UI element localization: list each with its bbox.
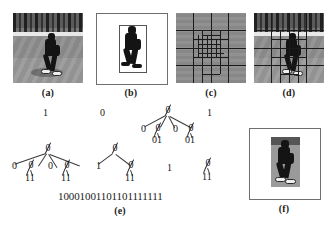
panel-b-frame — [96, 13, 168, 85]
tree-left-child-2: 0 — [27, 160, 35, 170]
bit-standalone-one: 1 — [167, 163, 172, 173]
tree-upper-right-child-3: 0 — [173, 124, 178, 134]
caption-f: (f) — [249, 203, 319, 214]
tree-middle-child-1: 1 — [96, 161, 101, 171]
tree-left-grandchild-1: 11 — [25, 173, 35, 183]
caption-b: (b) — [96, 87, 166, 98]
cropped-shoe-front — [285, 179, 296, 184]
overlay-gridlines — [254, 13, 324, 83]
person-shoe-front — [52, 71, 62, 76]
tree-upper-right-grandchild-2: 01 — [185, 135, 195, 145]
tree-upper-right-child-1: 0 — [141, 124, 146, 134]
panel-f-frame — [249, 128, 321, 200]
person-silhouette — [41, 33, 63, 77]
tree-left-root: 0 — [44, 143, 52, 153]
tree-upper-right-root: 0 — [164, 105, 172, 115]
tree-left-child-3: 0 — [48, 161, 53, 171]
tree-right-small-root: 0 — [204, 158, 212, 168]
bit-top-middle: 0 — [100, 108, 105, 118]
quadtree-gridlines — [176, 13, 246, 83]
panel-c-quadtree — [176, 13, 246, 83]
tree-right-small-leaf: 11 — [202, 172, 212, 182]
tree-middle-grandchild-1: 11 — [125, 173, 135, 183]
cropped-person-silhouette — [275, 140, 297, 185]
tree-left-child-1: 0 — [12, 161, 17, 171]
silhouette-shoe-front — [132, 64, 142, 68]
bit-top-left: 1 — [43, 108, 48, 118]
caption-c: (c) — [176, 87, 246, 98]
tree-left-child-4: 0 — [63, 160, 71, 170]
tree-middle-child-2: 0 — [127, 160, 135, 170]
person-shoe-back — [41, 69, 51, 74]
tree-upper-right-grandchild-1: 01 — [152, 135, 162, 145]
tree-middle-root: 0 — [111, 143, 119, 153]
tree-upper-right-child-4: 0 — [187, 123, 195, 133]
bit-top-right: 1 — [207, 108, 212, 118]
caption-e: (e) — [90, 205, 150, 216]
caption-a: (a) — [13, 87, 83, 98]
panel-d-overlay — [254, 13, 324, 83]
caption-d: (d) — [254, 87, 324, 98]
binary-silhouette — [121, 26, 144, 70]
tree-upper-right-child-2: 0 — [154, 123, 162, 133]
silhouette-shoe-back — [121, 62, 130, 66]
panel-a-photo — [13, 13, 83, 83]
quadtree-bit-string: 10001001101101111111 — [58, 190, 163, 202]
cropped-person-region — [271, 137, 300, 187]
tree-left-grandchild-2: 11 — [61, 173, 71, 183]
